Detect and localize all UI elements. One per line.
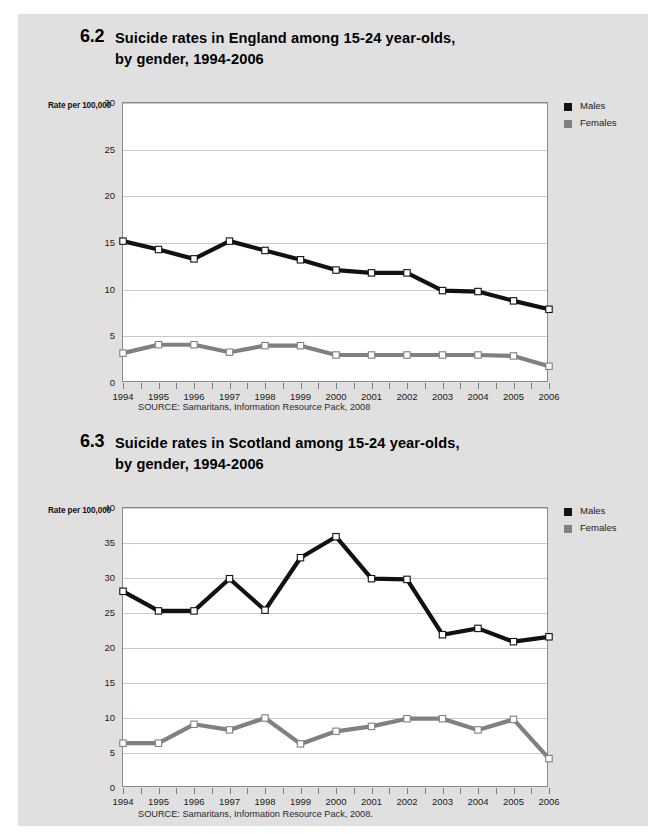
y-axis-tick-label: 10 — [75, 284, 115, 295]
y-axis-tick-label: 30 — [75, 572, 115, 583]
x-axis-minor-tick-mark — [212, 788, 213, 794]
source-note: SOURCE: Samaritans, Information Resource… — [138, 402, 370, 412]
legend-swatch-females — [564, 525, 572, 533]
x-axis-minor-tick-mark — [141, 383, 142, 389]
x-axis-tick-label: 2004 — [461, 391, 495, 402]
data-point-marker — [262, 715, 268, 721]
figure-title-line-1: Suicide rates in England among 15-24 yea… — [115, 28, 560, 49]
x-axis-minor-tick-mark — [354, 788, 355, 794]
data-point-marker — [262, 247, 268, 253]
x-axis-minor-tick-mark — [141, 788, 142, 794]
x-axis-tick-label: 1994 — [106, 391, 140, 402]
data-point-marker — [155, 342, 161, 348]
data-point-marker — [475, 352, 481, 358]
data-point-marker — [368, 270, 374, 276]
x-axis-minor-tick-mark — [460, 383, 461, 389]
figure-title-line-2: by gender, 1994-2006 — [115, 49, 560, 70]
x-axis-tick-mark — [478, 788, 479, 794]
data-point-marker — [546, 363, 552, 369]
data-point-marker — [368, 723, 374, 729]
plot-frame: 0510152025303540199419951996199719981999… — [122, 507, 548, 787]
data-point-marker — [120, 588, 126, 594]
x-axis-tick-mark — [265, 788, 266, 794]
series-layer — [123, 508, 549, 788]
x-axis-minor-tick-mark — [531, 383, 532, 389]
data-point-marker — [439, 287, 445, 293]
x-axis-minor-tick-mark — [318, 788, 319, 794]
x-axis-tick-label: 2000 — [319, 391, 353, 402]
x-axis-tick-label: 1994 — [106, 796, 140, 807]
x-axis-tick-mark — [478, 383, 479, 389]
data-point-marker — [333, 352, 339, 358]
data-point-marker — [439, 716, 445, 722]
x-axis-tick-mark — [159, 383, 160, 389]
y-axis-tick-label: 25 — [75, 144, 115, 155]
x-axis-tick-mark — [336, 788, 337, 794]
x-axis-tick-label: 1996 — [177, 391, 211, 402]
x-axis-minor-tick-mark — [318, 383, 319, 389]
x-axis-tick-mark — [301, 383, 302, 389]
x-axis-minor-tick-mark — [389, 383, 390, 389]
data-point-marker — [155, 246, 161, 252]
x-axis-minor-tick-mark — [212, 383, 213, 389]
x-axis-tick-mark — [194, 383, 195, 389]
y-axis-tick-label: 15 — [75, 237, 115, 248]
x-axis-tick-label: 1997 — [213, 391, 247, 402]
x-axis-tick-mark — [336, 383, 337, 389]
data-point-marker — [439, 632, 445, 638]
x-axis-tick-mark — [443, 383, 444, 389]
data-point-marker — [120, 740, 126, 746]
y-axis-tick-label: 15 — [75, 677, 115, 688]
x-axis-tick-label: 2003 — [426, 796, 460, 807]
data-point-marker — [226, 349, 232, 355]
x-axis-tick-label: 1995 — [142, 391, 176, 402]
data-point-marker — [226, 727, 232, 733]
legend-label-males: Males — [580, 100, 605, 111]
x-axis-tick-label: 2001 — [355, 796, 389, 807]
figure-title: Suicide rates in England among 15-24 yea… — [80, 28, 560, 70]
data-point-marker — [333, 267, 339, 273]
y-axis-tick-label: 5 — [75, 747, 115, 758]
y-axis-tick-label: 30 — [75, 97, 115, 108]
x-axis-minor-tick-mark — [531, 788, 532, 794]
series-layer — [123, 103, 549, 383]
x-axis-tick-label: 1998 — [248, 391, 282, 402]
x-axis-minor-tick-mark — [425, 383, 426, 389]
x-axis-minor-tick-mark — [283, 788, 284, 794]
series-line-males — [123, 241, 549, 309]
data-point-marker — [510, 639, 516, 645]
x-axis-minor-tick-mark — [354, 383, 355, 389]
document-page: 6.2 Suicide rates in England among 15-24… — [18, 14, 648, 826]
x-axis-minor-tick-mark — [176, 788, 177, 794]
legend-label-females: Females — [580, 117, 616, 128]
x-axis-tick-mark — [372, 788, 373, 794]
data-point-marker — [120, 238, 126, 244]
y-axis-tick-label: 0 — [75, 377, 115, 388]
series-line-males — [123, 537, 549, 642]
data-point-marker — [262, 607, 268, 613]
source-note: SOURCE: Samaritans, Information Resource… — [138, 809, 373, 819]
data-point-marker — [297, 257, 303, 263]
y-axis-tick-label: 25 — [75, 607, 115, 618]
data-point-marker — [404, 270, 410, 276]
data-point-marker — [120, 350, 126, 356]
x-axis-tick-mark — [159, 788, 160, 794]
legend-swatch-females — [564, 120, 572, 128]
x-axis-tick-mark — [301, 788, 302, 794]
x-axis-tick-mark — [514, 383, 515, 389]
data-point-marker — [546, 755, 552, 761]
figure-title-line-2: by gender, 1994-2006 — [115, 454, 560, 475]
data-point-marker — [155, 608, 161, 614]
data-point-marker — [475, 288, 481, 294]
data-point-marker — [510, 353, 516, 359]
x-axis-tick-mark — [372, 383, 373, 389]
data-point-marker — [333, 728, 339, 734]
data-point-marker — [439, 352, 445, 358]
x-axis-tick-label: 2005 — [497, 391, 531, 402]
x-axis-minor-tick-mark — [247, 788, 248, 794]
data-point-marker — [191, 256, 197, 262]
y-axis-tick-label: 10 — [75, 712, 115, 723]
x-axis-tick-mark — [407, 788, 408, 794]
data-point-marker — [404, 716, 410, 722]
figure-title: Suicide rates in Scotland among 15-24 ye… — [80, 433, 560, 475]
